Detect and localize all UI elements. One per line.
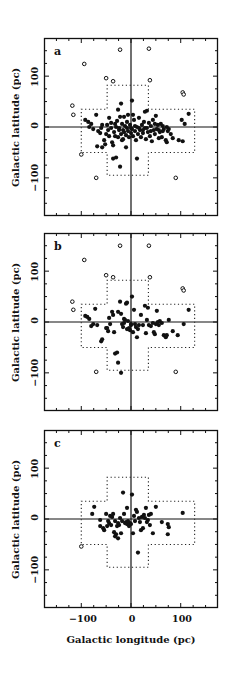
filled-data-point (136, 132, 140, 136)
filled-data-point (117, 126, 121, 130)
filled-data-point (134, 138, 138, 142)
filled-data-point (125, 120, 129, 124)
filled-data-point (148, 523, 152, 527)
open-data-point (79, 153, 83, 157)
filled-data-point (121, 128, 125, 132)
filled-data-point (135, 156, 139, 160)
filled-data-point (187, 112, 191, 116)
filled-data-point (135, 510, 139, 514)
filled-data-point (130, 98, 134, 102)
filled-data-point (125, 301, 129, 305)
open-data-point (94, 370, 98, 374)
filled-data-point (160, 135, 164, 139)
filled-data-point (105, 326, 109, 330)
filled-data-point (119, 312, 123, 316)
filled-data-point (113, 534, 117, 538)
filled-data-point (154, 505, 158, 509)
filled-data-point (146, 306, 150, 310)
open-data-point (148, 275, 152, 279)
filled-data-point (120, 138, 124, 142)
open-data-point (82, 258, 86, 262)
filled-data-point (137, 126, 141, 130)
filled-data-point (136, 327, 140, 331)
filled-data-point (153, 122, 157, 126)
filled-data-point (111, 143, 115, 147)
y-axis-label: Galactic latitude (pc) (2, 430, 28, 608)
open-data-point (82, 62, 86, 66)
filled-data-point (133, 519, 137, 523)
filled-data-point (176, 333, 180, 337)
filled-data-point (116, 361, 120, 365)
open-data-point (79, 545, 83, 549)
filled-data-point (136, 550, 140, 554)
filled-data-point (100, 145, 104, 149)
filled-data-point (121, 325, 125, 329)
plot-svg: b (44, 233, 218, 411)
filled-data-point (91, 322, 95, 326)
filled-data-point (150, 139, 154, 143)
filled-data-point (133, 129, 137, 133)
filled-data-point (129, 322, 133, 326)
filled-data-point (119, 102, 123, 106)
open-data-point (104, 76, 108, 80)
open-data-point (111, 275, 115, 279)
filled-data-point (149, 512, 153, 516)
x-axis-label: Galactic longitude (pc) (44, 634, 218, 645)
open-data-point (71, 104, 75, 108)
filled-data-point (187, 308, 191, 312)
filled-data-point (137, 323, 141, 327)
y-tick-100: 100 (29, 262, 40, 282)
filled-data-point (105, 123, 109, 127)
filled-data-point (108, 322, 112, 326)
filled-data-point (109, 126, 113, 130)
open-data-point (104, 273, 108, 277)
filled-data-point (111, 512, 115, 516)
scatter-plot-b: b (44, 233, 218, 411)
plot-svg: a (44, 38, 218, 216)
y-tick-minus-100: −100 (29, 164, 40, 192)
y-tick-100: 100 (29, 459, 40, 479)
filled-data-point (139, 313, 143, 317)
filled-data-point (145, 318, 149, 322)
filled-data-point (124, 145, 128, 149)
filled-data-point (155, 309, 159, 313)
open-data-point (118, 244, 122, 248)
filled-data-point (94, 113, 98, 117)
filled-data-point (122, 317, 126, 321)
filled-data-point (181, 139, 185, 143)
filled-data-point (98, 131, 102, 135)
filled-data-point (122, 512, 126, 516)
filled-data-point (131, 330, 135, 334)
filled-data-point (91, 127, 95, 131)
open-data-point (148, 78, 152, 82)
filled-data-point (116, 108, 120, 112)
filled-data-point (102, 528, 106, 532)
filled-data-point (165, 333, 169, 337)
open-data-point (147, 47, 151, 51)
filled-data-point (132, 514, 136, 518)
filled-data-point (160, 321, 164, 325)
y-axis-label: Galactic latitude (pc) (2, 233, 28, 411)
filled-data-point (119, 531, 123, 535)
filled-data-point (100, 337, 104, 341)
filled-data-point (139, 135, 143, 139)
open-data-point (182, 289, 186, 293)
filled-data-point (93, 307, 97, 311)
open-data-point (174, 370, 178, 374)
filled-data-point (145, 126, 149, 130)
filled-data-point (148, 134, 152, 138)
filled-data-point (118, 165, 122, 169)
filled-data-point (135, 335, 139, 339)
open-data-point (147, 244, 151, 248)
filled-data-point (141, 526, 145, 530)
x-tick-100: 100 (172, 613, 192, 624)
filled-data-point (95, 144, 99, 148)
filled-data-point (125, 126, 129, 130)
scatter-plot-c: c (44, 430, 218, 608)
filled-data-point (180, 118, 184, 122)
filled-data-point (117, 523, 121, 527)
y-tick-0: 0 (29, 317, 40, 324)
filled-data-point (104, 512, 108, 516)
filled-data-point (109, 523, 113, 527)
filled-data-point (87, 125, 91, 129)
